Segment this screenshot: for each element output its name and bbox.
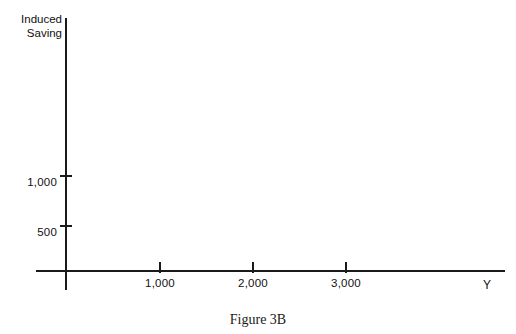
x-tick-label-3000: 3,000 (331, 277, 361, 289)
figure-caption: Figure 3B (0, 312, 516, 328)
y-axis-title: Induced Saving (0, 13, 62, 40)
figure-3b: Induced Saving 1,000 500 1,000 2,000 3,0… (0, 0, 516, 334)
plot-area (67, 18, 505, 270)
x-tick-label-1000: 1,000 (145, 277, 175, 289)
y-tick-mark-500 (60, 225, 72, 227)
y-axis-title-line-2: Saving (0, 27, 62, 41)
x-tick-label-2000: 2,000 (238, 277, 268, 289)
x-tick-mark-1000 (159, 262, 161, 273)
y-axis-title-line-1: Induced (0, 13, 62, 27)
x-tick-mark-3000 (345, 262, 347, 273)
x-axis-line (36, 270, 505, 272)
x-tick-mark-2000 (252, 262, 254, 273)
y-tick-mark-1000 (60, 175, 72, 177)
y-tick-label-1000: 1,000 (27, 176, 57, 188)
x-axis-title: Y (483, 278, 491, 292)
y-tick-label-500: 500 (37, 226, 57, 238)
